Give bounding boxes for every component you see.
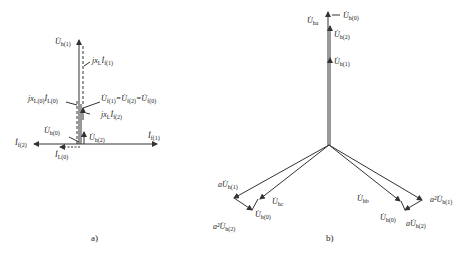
a2-uh1-right-phasor: [329, 145, 422, 200]
label-uha: U̇ha: [307, 16, 318, 28]
label-uh2-top: U̇h(2): [334, 30, 350, 42]
label-uf-equal: U̇f(1)=U̇f(2)=U̇f(0): [101, 94, 156, 106]
label-uh0-top: U̇h(0): [343, 11, 359, 23]
label-a2-uh1-right: a²U̇h(1): [430, 195, 452, 207]
uhb-phasor: [329, 145, 400, 201]
label-if2: İf(2): [15, 138, 27, 150]
label-uh0-right: U̇h(0): [380, 213, 396, 225]
label-uh0: U̇h(0): [44, 126, 60, 138]
label-jxl-if1: jxLİf(1): [92, 56, 113, 68]
a-uh1-left-phasor: [234, 145, 329, 198]
label-il0: İL(0): [55, 150, 68, 162]
label-a-uh1-left: aU̇h(1): [218, 180, 238, 192]
caption-a: a): [91, 233, 98, 243]
label-a-uh2-right: aU̇h(2): [406, 219, 426, 231]
label-a2-uh2-left: a²U̇h(2): [213, 222, 235, 234]
panel-b-phasors: [234, 12, 422, 210]
label-uhb: U̇hb: [357, 194, 369, 206]
label-uhc: U̇hc: [272, 197, 283, 209]
label-if1: İf(1): [148, 131, 160, 143]
caption-b: b): [326, 233, 334, 243]
uh0-right-phasor: [401, 201, 405, 210]
uh0-left-phasor: [252, 199, 258, 210]
label-jxl-if2: jxLİf(2): [101, 110, 122, 122]
uhc-phasor: [260, 145, 329, 199]
a2-uh2-left-phasor: [234, 198, 252, 210]
label-uh1-top: U̇h(1): [334, 57, 350, 69]
a-uh2-right-phasor: [405, 200, 422, 210]
label-uh2: U̇h(2): [89, 133, 105, 145]
label-uh0-left: U̇h(0): [255, 210, 271, 222]
label-uh1: U̇h(1): [55, 37, 71, 49]
label-jxl0-il0: jxL(0)İL(0): [28, 94, 58, 106]
